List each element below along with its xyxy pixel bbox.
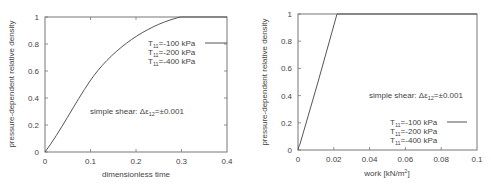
- right-xtick-1: 0.02: [326, 155, 342, 164]
- left-ytick-0: 0: [35, 148, 40, 157]
- left-series-curves: [45, 17, 227, 152]
- right-y-axis-label: pressure-dependent relative density: [260, 18, 269, 145]
- left-ytick-2: 0.4: [28, 94, 40, 103]
- left-legend: T11=-100 kPa T11=-200 kPa T11=-400 kPa: [148, 39, 227, 67]
- right-series-curves: [298, 14, 477, 150]
- left-xtick-1: 0.1: [85, 157, 97, 166]
- right-xtick-4: 0.08: [433, 155, 449, 164]
- left-xtick-3: 0.3: [176, 157, 188, 166]
- left-chart: 0 0.2 0.4 0.6 0.8 1 0 0.1 0.2 0.3 0.4 di…: [7, 13, 233, 179]
- right-xtick-2: 0.04: [362, 155, 378, 164]
- right-xtick-5: 0.1: [471, 155, 483, 164]
- left-x-axis-label: dimensionless time: [102, 170, 171, 179]
- left-y-ticks: [45, 17, 227, 152]
- right-xtick-3: 0.06: [398, 155, 414, 164]
- left-ytick-1: 0.2: [28, 121, 40, 130]
- left-ytick-5: 1: [35, 13, 40, 22]
- right-ytick-1: 0.2: [281, 119, 293, 128]
- left-legend-item-3: T11=-400 kPa: [148, 57, 196, 67]
- right-xtick-0: 0: [296, 155, 301, 164]
- left-xtick-2: 0.2: [130, 157, 142, 166]
- right-legend-item-3: T11=-400 kPa: [390, 136, 438, 146]
- left-plot-frame: [45, 17, 227, 152]
- right-plot-frame: [298, 14, 477, 150]
- right-ytick-0: 0: [288, 146, 293, 155]
- right-legend: T11=-100 kPa T11=-200 kPa T11=-400 kPa: [390, 118, 467, 146]
- figure: 0 0.2 0.4 0.6 0.8 1 0 0.1 0.2 0.3 0.4 di…: [0, 0, 491, 187]
- right-ytick-2: 0.4: [281, 92, 293, 101]
- right-ytick-4: 0.8: [281, 37, 293, 46]
- right-chart: 0 0.2 0.4 0.6 0.8 1 0 0.02 0.04 0.06 0.0…: [260, 10, 483, 178]
- left-ytick-4: 0.8: [28, 40, 40, 49]
- right-ytick-3: 0.6: [281, 64, 293, 73]
- left-ytick-3: 0.6: [28, 67, 40, 76]
- left-xtick-0: 0: [43, 157, 48, 166]
- right-annotation: simple shear: Δε12=±0.001: [369, 91, 463, 101]
- left-x-ticks: [91, 17, 182, 152]
- left-xtick-4: 0.4: [221, 157, 233, 166]
- right-x-axis-label: work [kN/m2]: [363, 168, 409, 178]
- right-ytick-5: 1: [288, 10, 293, 19]
- left-y-axis-label: pressure-dependent relative density: [7, 20, 16, 147]
- left-annotation: simple shear: Δε12=±0.001: [90, 107, 184, 117]
